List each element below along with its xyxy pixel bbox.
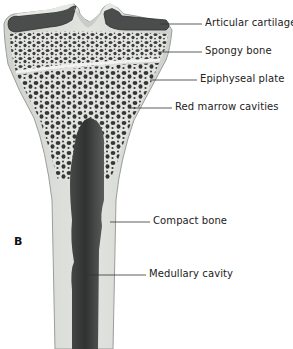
label-medullary-cavity: Medullary cavity: [149, 268, 233, 279]
articular-cartilage-right: [104, 6, 169, 30]
label-spongy-bone: Spongy bone: [205, 45, 272, 56]
label-red-marrow-cavities: Red marrow cavities: [175, 101, 279, 112]
label-epiphyseal-plate: Epiphyseal plate: [200, 73, 284, 84]
panel-label: B: [14, 235, 22, 248]
bone-diagram: Articular cartilage Spongy bone Epiphyse…: [0, 0, 293, 349]
label-articular-cartilage: Articular cartilage: [205, 17, 293, 28]
label-compact-bone: Compact bone: [153, 215, 227, 226]
